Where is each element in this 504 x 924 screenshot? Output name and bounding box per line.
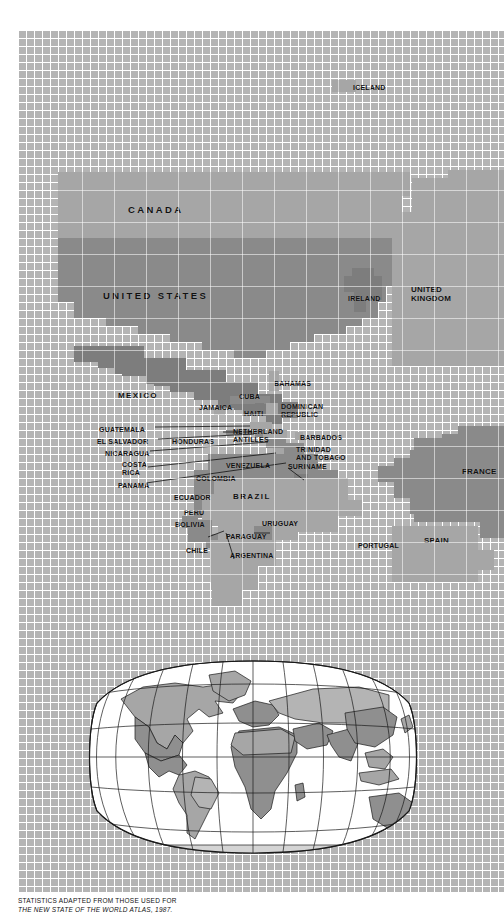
country-dominican-republic [266,403,278,414]
country-label-honduras: HONDURAS [172,438,214,445]
inset-world-map [83,657,423,857]
country-label-colombia: COLOMBIA [196,475,236,482]
country-label-trinidad: TRINIDADAND TOBAGO [296,446,346,461]
country-label-united: UNITEDKINGDOM [411,286,451,303]
country-label-canada: CANADA [128,205,184,215]
source-caption: STATISTICS ADAPTED FROM THOSE USED FOR T… [18,896,318,915]
country-label-spain: SPAIN [424,537,449,545]
country-label-iceland: ICELAND [353,84,386,91]
country-label-united-states: UNITED STATES [103,291,208,301]
country-label-ireland: IRELAND [348,295,381,302]
country-label-netherland: NETHERLANDANTILLES [233,428,283,443]
caption-line-2: THE NEW STATE OF THE WORLD ATLAS, 1987. [18,905,318,914]
country-label-line2: REPUBLIC [281,411,323,418]
country-label-barbados: BARBADOS [300,434,342,441]
caption-line-1: STATISTICS ADAPTED FROM THOSE USED FOR [18,897,177,904]
country-label-nicaragua: NICARAGUA [105,450,150,457]
country-label-cuba: CUBA [239,393,260,400]
country-label-line2: KINGDOM [411,295,451,303]
country-label-ecuador: ECUADOR [174,494,211,501]
country-label-venezuela: VENEZUELA [226,462,270,469]
country-label-peru: PERU [184,509,204,516]
country-spain-tail [464,550,494,570]
map-figure: CANADAUNITED STATESMEXICOGUATEMALAEL SAL… [0,0,504,924]
country-label-uruguay: URUGUAY [262,520,298,527]
country-label-line2: AND TOBAGO [296,454,346,461]
country-label-haiti: HAITI [244,410,263,417]
country-label-el-salvador: EL SALVADOR [97,438,148,445]
country-label-panama: PANAMA [118,482,149,489]
country-label-costa: COSTARICA [122,461,147,476]
country-label-line2: ANTILLES [233,436,283,443]
country-label-bahamas: BAHAMAS [274,380,311,387]
country-label-guatemala: GUATEMALA [99,426,145,433]
country-portugal [392,526,404,582]
country-chile [210,542,224,606]
country-label-jamaica: JAMAICA [199,404,232,411]
country-label-france: FRANCE [462,468,497,476]
country-label-suriname: SURINAME [288,463,327,470]
country-label-chile: CHILE [186,547,208,554]
country-label-line2: RICA [122,469,147,476]
country-label-bolivia: BOLIVIA [175,521,205,528]
inset-world-svg [83,657,423,857]
inset-new-zealand [413,825,421,837]
country-label-brazil: BRAZIL [233,493,271,501]
country-label-mexico: MEXICO [118,392,158,400]
country-label-portugal: PORTUGAL [358,542,399,549]
country-label-paraguay: PARAGUAY [226,533,267,540]
inset-north-africa [231,729,295,755]
country-label-argentina: ARGENTINA [230,552,273,559]
country-label-dominican: DOMINICANREPUBLIC [281,403,323,418]
